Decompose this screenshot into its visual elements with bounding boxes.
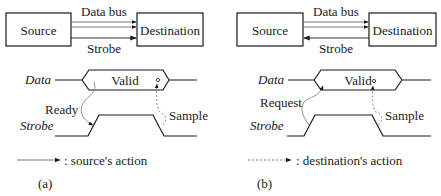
data-bus-label: Data bus <box>81 4 127 19</box>
source-label: Source <box>20 23 56 38</box>
data-signal-label: Data <box>24 72 52 87</box>
valid-label: Valid <box>111 73 139 88</box>
sample-label: Sample <box>385 108 424 123</box>
strobe-signal-label: Strobe <box>250 118 284 133</box>
request-label: Request <box>260 95 302 110</box>
sample-label: Sample <box>169 108 208 123</box>
caption-b: (b) <box>257 176 272 191</box>
destination-label: Destination <box>373 23 433 38</box>
legend-destination-text: : destination's action <box>296 153 403 168</box>
panel-b: Source Destination Data bus Strobe Data … <box>237 4 436 191</box>
source-label: Source <box>252 23 288 38</box>
panel-a: Source Destination Data bus Strobe Data … <box>6 4 208 191</box>
ready-label: Ready <box>45 102 79 117</box>
destination-label: Destination <box>140 23 200 38</box>
legend-source-text: : source's action <box>64 153 148 168</box>
caption-a: (a) <box>38 176 52 191</box>
sample-point <box>156 78 159 81</box>
diagram-canvas: Source Destination Data bus Strobe Data … <box>0 0 441 196</box>
data-signal-label: Data <box>257 72 285 87</box>
data-bus-label: Data bus <box>313 4 359 19</box>
sample-point <box>372 79 375 82</box>
strobe-label: Strobe <box>87 41 121 56</box>
valid-label: Valid <box>344 73 372 88</box>
strobe-label: Strobe <box>319 41 353 56</box>
strobe-signal-label: Strobe <box>20 118 54 133</box>
